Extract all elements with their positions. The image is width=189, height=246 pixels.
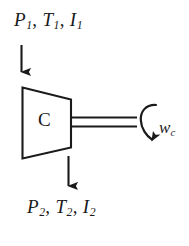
outlet-temperature-symbol: T xyxy=(55,196,66,217)
outlet-separator-1: , xyxy=(45,196,55,217)
inlet-separator-2: , xyxy=(60,9,70,30)
compressor-label: C xyxy=(38,110,51,129)
inlet-separator-1: , xyxy=(32,9,42,30)
outlet-separator-2: , xyxy=(73,196,83,217)
outlet-current-subscript: 2 xyxy=(89,206,95,219)
caption-clipped xyxy=(0,240,189,246)
compressor-diagram-figure: P1, T1, I1 C wc P2, T2, I2 xyxy=(0,0,189,246)
drive-shaft xyxy=(70,118,137,127)
work-subscript: c xyxy=(170,127,175,138)
outlet-state-label: P2, T2, I2 xyxy=(27,197,96,219)
inlet-temperature-symbol: T xyxy=(42,9,53,30)
inlet-pressure-symbol: P xyxy=(14,9,26,30)
shaft-work-rotation-arrow xyxy=(141,105,156,140)
inlet-current-subscript: 1 xyxy=(76,19,82,32)
inlet-state-label: P1, T1, I1 xyxy=(14,10,83,32)
work-symbol: w xyxy=(159,118,170,137)
shaft-work-label: wc xyxy=(159,119,175,138)
outlet-pressure-symbol: P xyxy=(27,196,39,217)
